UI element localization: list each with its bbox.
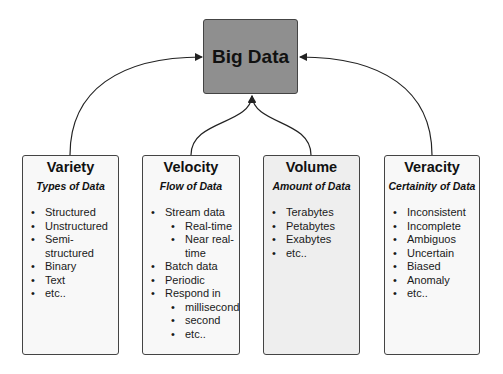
list-item: Binary (45, 260, 118, 274)
list-item: Petabytes (286, 220, 359, 234)
arrow-veracity (300, 57, 432, 155)
item-list: Inconsistent Incomplete Ambiguos Uncerta… (385, 206, 479, 301)
item-list: Terabytes Petabytes Exabytes etc.. (264, 206, 359, 260)
arrow-velocity (191, 96, 252, 155)
list-item-label: Respond in (165, 287, 221, 299)
list-item: Terabytes (286, 206, 359, 220)
list-item: Near real-time (185, 233, 239, 260)
list-item: Semi-structured (45, 233, 118, 260)
list-item: Inconsistent (407, 206, 479, 220)
card-subtitle: Amount of Data (264, 180, 359, 192)
list-item: Unstructured (45, 220, 118, 234)
item-list: Structured Unstructured Semi-structured … (23, 206, 118, 301)
item-list: Stream data Real-time Near real-time Bat… (143, 206, 239, 341)
list-item: Ambiguos (407, 233, 479, 247)
big-data-node: Big Data (203, 19, 298, 94)
card-subtitle: Types of Data (23, 180, 118, 192)
list-item: etc.. (407, 287, 479, 301)
list-item: Batch data (165, 260, 239, 274)
list-item: Real-time (185, 220, 239, 234)
list-item: etc.. (45, 287, 118, 301)
card-title: Volume (264, 159, 359, 175)
list-item: millisecond (185, 301, 239, 315)
hub-title: Big Data (212, 46, 289, 68)
list-item: Anomaly (407, 274, 479, 288)
card-variety: Variety Types of Data Structured Unstruc… (22, 155, 119, 355)
card-title: Velocity (143, 159, 239, 175)
sub-list: Real-time Near real-time (165, 220, 239, 261)
list-item: Periodic (165, 274, 239, 288)
card-title: Veracity (385, 159, 479, 175)
list-item: Text (45, 274, 118, 288)
arrow-variety (70, 57, 202, 155)
list-item: second (185, 314, 239, 328)
list-item: Uncertain (407, 247, 479, 261)
card-subtitle: Certainity of Data (385, 180, 479, 192)
list-item: Respond in millisecond second etc.. (165, 287, 239, 341)
list-item: Biased (407, 260, 479, 274)
arrow-volume (252, 96, 311, 155)
card-velocity: Velocity Flow of Data Stream data Real-t… (142, 155, 240, 355)
list-item: etc.. (185, 328, 239, 342)
list-item: etc.. (286, 247, 359, 261)
list-item: Structured (45, 206, 118, 220)
list-item: Stream data Real-time Near real-time (165, 206, 239, 260)
card-volume: Volume Amount of Data Terabytes Petabyte… (263, 155, 360, 355)
list-item: Incomplete (407, 220, 479, 234)
list-item: Exabytes (286, 233, 359, 247)
card-subtitle: Flow of Data (143, 180, 239, 192)
sub-list: millisecond second etc.. (165, 301, 239, 342)
card-veracity: Veracity Certainity of Data Inconsistent… (384, 155, 480, 355)
list-item-label: Stream data (165, 206, 225, 218)
card-title: Variety (23, 159, 118, 175)
